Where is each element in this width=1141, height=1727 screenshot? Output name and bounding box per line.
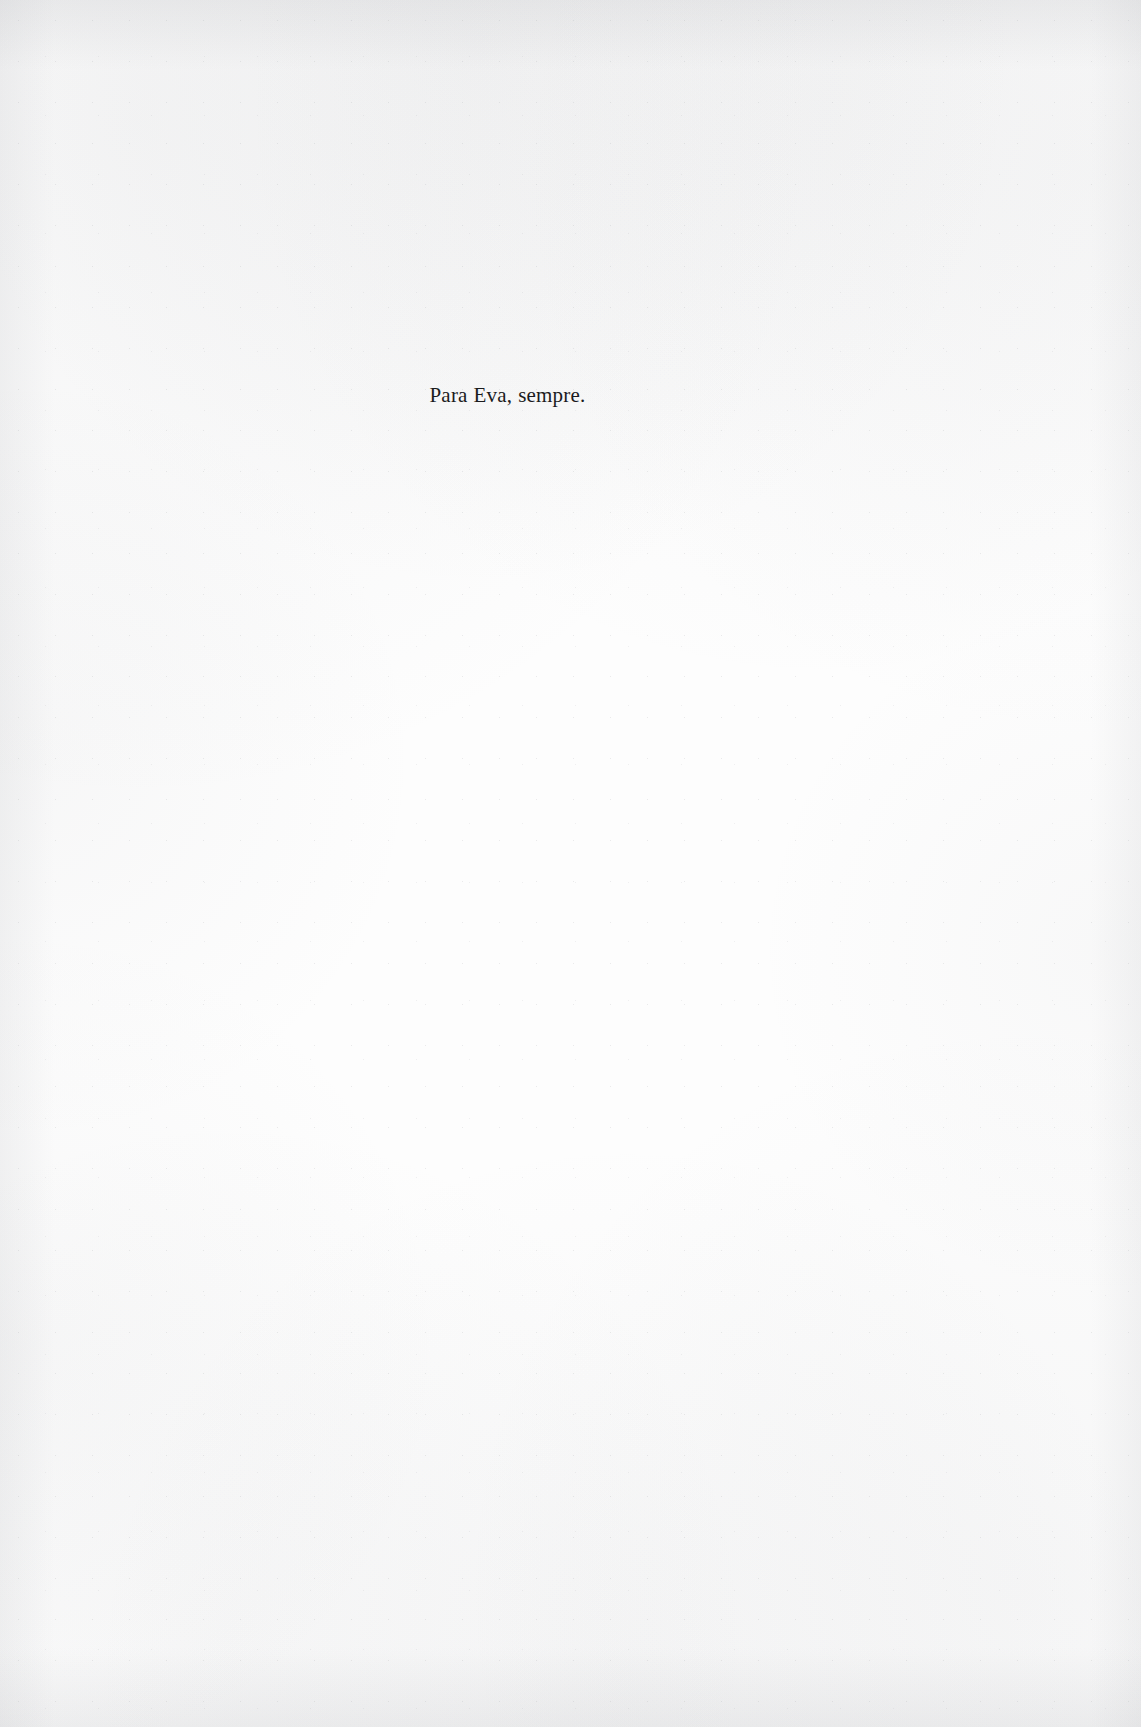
scanned-page: Para Eva, sempre. — [0, 0, 1141, 1727]
dedication-block: Para Eva, sempre. — [0, 382, 1141, 408]
dedication-text: Para Eva, sempre. — [429, 382, 585, 408]
paper-background — [0, 0, 1141, 1727]
